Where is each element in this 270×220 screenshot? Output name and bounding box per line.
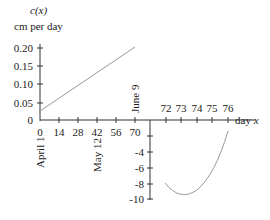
xtick-76: 76 — [223, 102, 235, 114]
ytick-neg8: -8 — [135, 178, 145, 190]
chart-canvas: c(x) cm per day 0.20 0.15 0.10 0.05 0 0 … — [0, 0, 270, 220]
ytick-neg4: -4 — [135, 146, 145, 158]
xtick-72: 72 — [161, 102, 172, 114]
xtick-73: 73 — [176, 102, 188, 114]
xtick-70: 70 — [130, 126, 142, 138]
xtick-74: 74 — [192, 102, 204, 114]
date-may-12: May 12 — [91, 138, 103, 172]
ytick-0-10: 0.10 — [14, 78, 34, 90]
xtick-56: 56 — [111, 126, 123, 138]
x-axis-title: day x — [235, 114, 259, 126]
ytick-0-05: 0.05 — [14, 97, 34, 109]
date-april-1: April 1 — [34, 137, 46, 168]
date-june-9: June 9 — [129, 84, 141, 113]
y-axis-units: cm per day — [14, 20, 63, 32]
right-y-axis — [147, 120, 153, 200]
growth-line — [40, 47, 135, 111]
ytick-0-20: 0.20 — [14, 42, 34, 54]
xtick-75: 75 — [207, 102, 219, 114]
decline-curve — [165, 131, 228, 195]
ytick-0-15: 0.15 — [14, 60, 34, 72]
xtick-14: 14 — [54, 126, 66, 138]
y-axis-title: c(x) — [30, 4, 47, 17]
ytick-0: 0 — [28, 114, 34, 126]
ytick-neg10: -10 — [129, 193, 144, 205]
ytick-neg6: -6 — [135, 162, 145, 174]
xtick-28: 28 — [73, 126, 85, 138]
left-x-axis — [40, 117, 255, 123]
xtick-42: 42 — [92, 126, 103, 138]
xtick-0: 0 — [37, 126, 43, 138]
